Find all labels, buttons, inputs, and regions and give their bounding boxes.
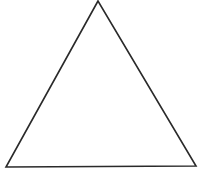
triangle-diagram <box>0 0 206 174</box>
diagram-canvas <box>0 0 206 174</box>
triangle-shape <box>6 1 196 167</box>
